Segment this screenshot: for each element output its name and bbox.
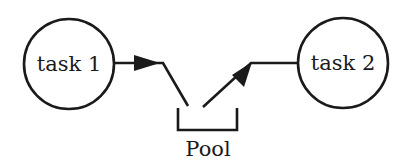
arrowhead-out-icon	[232, 62, 252, 87]
pool-label: Pool	[185, 137, 231, 161]
edge-task1-to-pool	[114, 55, 188, 106]
pool-bracket	[178, 108, 237, 130]
task-2-node: task 2	[298, 18, 388, 108]
arrowhead-in-icon	[134, 55, 160, 71]
edge-pool-to-task2	[203, 62, 298, 107]
edge-line-out	[203, 63, 298, 107]
task-1-label: task 1	[37, 52, 102, 76]
pool-diagram: task 1 task 2 Pool	[0, 0, 409, 163]
pool: Pool	[178, 108, 237, 161]
task-2-label: task 2	[311, 51, 376, 75]
edge-line-in	[114, 63, 188, 106]
task-1-node: task 1	[24, 19, 114, 109]
